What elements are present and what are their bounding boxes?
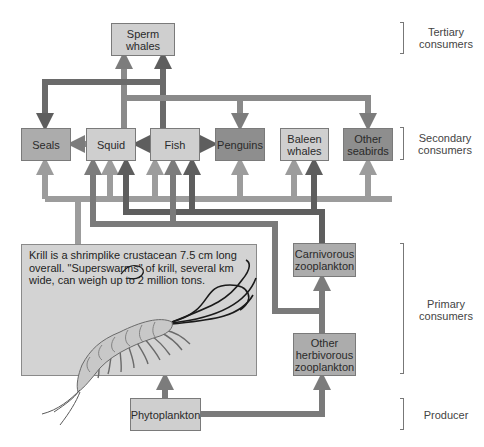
node-carnivorous-zooplankton: Carnivorous zooplankton	[293, 243, 356, 277]
label-producer: Producer	[408, 409, 484, 421]
label-primary-consumers: Primary consumers	[408, 298, 484, 322]
bracket-primary	[400, 243, 404, 374]
bracket-secondary	[400, 127, 404, 160]
node-phytoplankton: Phytoplankton	[130, 398, 201, 431]
bracket-producer	[400, 398, 404, 430]
bracket-tertiary	[400, 22, 404, 54]
label-tertiary-consumers: Tertiary consumers	[408, 26, 484, 50]
node-other-herbivorous-zooplankton: Other herbivorous zooplankton	[293, 333, 356, 376]
label-secondary-consumers: Secondary consumers	[406, 132, 484, 156]
krill-illustration	[0, 0, 484, 447]
